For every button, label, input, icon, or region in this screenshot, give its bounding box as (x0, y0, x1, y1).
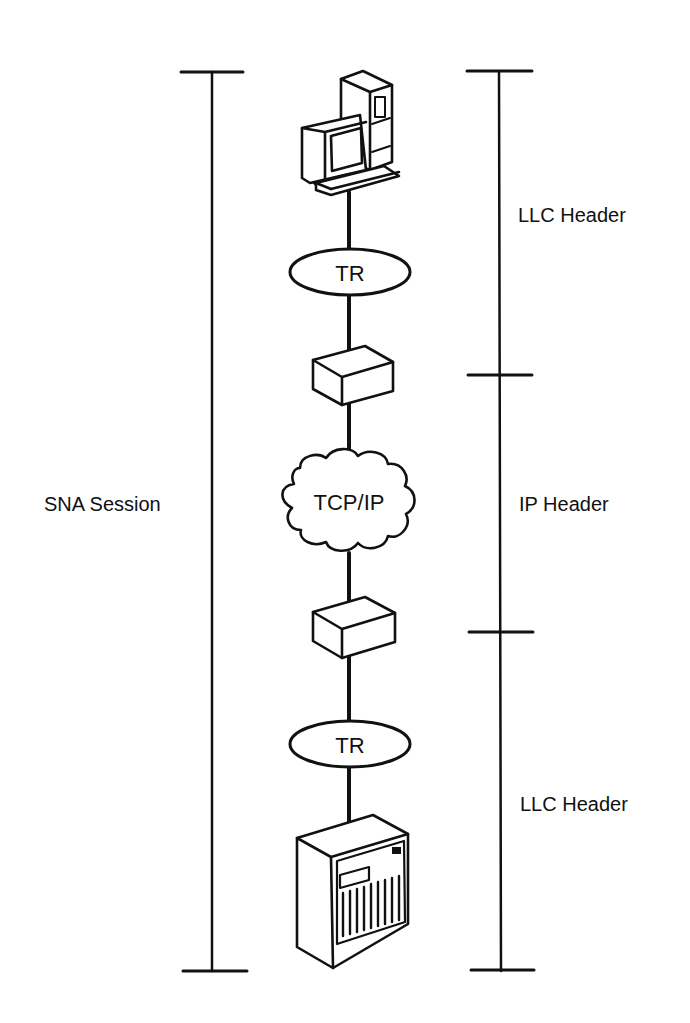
sna-session-bracket (181, 72, 247, 971)
desktop-computer-icon (302, 71, 399, 195)
router-bottom-icon (313, 597, 395, 658)
mainframe-host-icon (297, 815, 408, 968)
tr-top-label: TR (335, 261, 364, 286)
llc-header-bottom-label: LLC Header (520, 793, 628, 815)
diagram-canvas: SNA Session LLC Header IP Header LLC Hea… (0, 0, 690, 1023)
tr-bottom-label: TR (335, 733, 364, 758)
token-ring-bottom-node: TR (290, 721, 410, 767)
ip-header-label: IP Header (519, 493, 609, 515)
tcpip-label: TCP/IP (314, 490, 385, 515)
token-ring-top-node: TR (290, 249, 410, 295)
sna-session-label: SNA Session (44, 493, 161, 515)
llc-header-top-label: LLC Header (518, 204, 626, 226)
router-top-icon (313, 346, 393, 405)
tcpip-cloud-node: TCP/IP (282, 449, 414, 551)
